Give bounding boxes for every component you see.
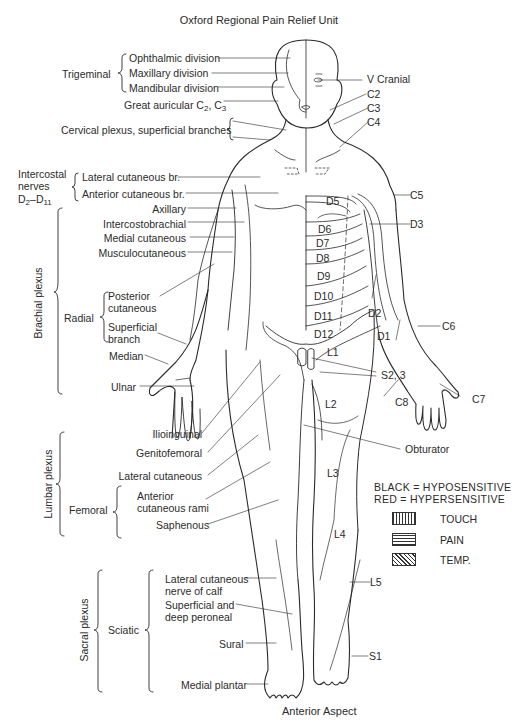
dermatome-d8: D8 (316, 252, 329, 264)
femoral-group-label: Femoral (69, 504, 108, 516)
anterior-cutaneous-br-label: Anterior cutaneous br. (82, 188, 185, 200)
medial-plantar-label: Medial plantar (181, 679, 247, 691)
s2-3-label: S2, 3 (381, 369, 406, 381)
l5-label: L5 (370, 576, 382, 588)
ophthalmic-division-label: Ophthalmic division (129, 52, 220, 64)
obturator-label: Obturator (405, 443, 449, 455)
lateral-cutaneous-thigh-label: Lateral cutaneous (119, 470, 202, 482)
c8-label: C8 (395, 396, 408, 408)
legend-hypersensitive: RED = HYPERSENSITIVE (374, 493, 505, 505)
cervical-plexus-label: Cervical plexus, superficial branches (61, 124, 231, 136)
intercostal-group-line2: nerves (18, 180, 50, 192)
sacral-plexus-group-label: Sacral plexus (78, 598, 90, 661)
dermatome-d6: D6 (318, 223, 331, 235)
intercostal-group-line3: D2–D11 (18, 193, 52, 209)
legend-item-touch: TOUCH (392, 512, 477, 525)
c5-label: C5 (410, 189, 423, 201)
d2-label: D2 (368, 307, 381, 319)
musculocutaneous-label: Musculocutaneous (98, 247, 186, 259)
diagonal-hatch-swatch-icon (392, 553, 416, 566)
sciatic-group-label: Sciatic (108, 624, 139, 636)
trigeminal-group-label: Trigeminal (62, 68, 111, 80)
v-cranial-label: V Cranial (367, 73, 410, 85)
lateral-cutaneous-calf-label-2: nerve of calf (165, 585, 222, 597)
vertical-hatch-swatch-icon (392, 512, 416, 525)
superficial-branch-label-2: branch (108, 333, 140, 345)
lateral-cutaneous-br-label: Lateral cutaneous br. (82, 171, 180, 183)
d3-label: D3 (410, 218, 423, 230)
c4-label: C4 (367, 116, 380, 128)
c7-label: C7 (472, 393, 485, 405)
median-label: Median (109, 350, 143, 362)
superficial-branch-label-1: Superficial (108, 321, 157, 333)
legend-item-temp: TEMP. (392, 553, 471, 566)
lateral-cutaneous-calf-label-1: Lateral cutaneous (165, 573, 248, 585)
medial-cutaneous-label: Medial cutaneous (104, 232, 186, 244)
figure-caption: Anterior Aspect (282, 705, 357, 717)
maxillary-division-label: Maxillary division (129, 67, 208, 79)
axillary-label: Axillary (152, 203, 186, 215)
ilioinguinal-label: Ilioinguinal (152, 428, 202, 440)
intercostobrachial-label: Intercostobrachial (103, 218, 186, 230)
dermatome-d11: D11 (314, 310, 332, 322)
saphenous-label: Saphenous (156, 519, 209, 531)
dermatome-d9: D9 (317, 270, 330, 282)
legend-item-pain: PAIN (392, 533, 464, 546)
peroneal-label-2: deep peroneal (165, 611, 232, 623)
c6-label: C6 (442, 320, 455, 332)
radial-group-label: Radial (64, 312, 94, 324)
dermatome-l1: L1 (327, 346, 339, 358)
ulnar-label: Ulnar (111, 381, 136, 393)
dermatome-d5: D5 (326, 195, 339, 207)
anterior-cutaneous-rami-label-2: cutaneous rami (137, 502, 209, 514)
genitofemoral-label: Genitofemoral (136, 447, 202, 459)
dermatome-d12: D12 (314, 328, 333, 340)
brachial-plexus-group-label: Brachial plexus (32, 267, 44, 338)
great-auricular-label: Great auricular C2, C3 (124, 99, 226, 115)
legend-hyposensitive: BLACK = HYPOSENSITIVE (374, 481, 511, 493)
horizontal-hatch-swatch-icon (392, 533, 416, 546)
c2-label: C2 (367, 88, 380, 100)
posterior-cutaneous-label-2: cutaneous (108, 302, 156, 314)
sural-label: Sural (219, 638, 244, 650)
anterior-cutaneous-rami-label-1: Anterior (137, 490, 174, 502)
c3-label: C3 (367, 102, 380, 114)
mandibular-division-label: Mandibular division (129, 82, 219, 94)
posterior-cutaneous-label-1: Posterior (108, 290, 150, 302)
dermatome-l4: L4 (334, 528, 346, 540)
dermatome-d7: D7 (316, 237, 329, 249)
intercostal-group-line1: Intercostal (18, 168, 66, 180)
s1-label: S1 (369, 650, 382, 662)
d1-label: D1 (377, 330, 390, 342)
dermatome-l2: L2 (325, 398, 337, 410)
peroneal-label-1: Superficial and (165, 599, 234, 611)
dermatome-l3: L3 (327, 467, 339, 479)
dermatome-d10: D10 (314, 290, 333, 302)
lumbar-plexus-group-label: Lumbar plexus (42, 450, 54, 519)
